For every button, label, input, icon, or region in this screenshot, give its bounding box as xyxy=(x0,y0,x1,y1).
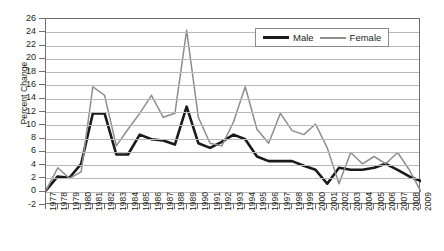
legend-label-male: Male xyxy=(293,33,314,43)
y-tick-mark xyxy=(39,84,45,85)
y-tick-label: 12 xyxy=(14,107,36,116)
y-tick-mark xyxy=(39,191,45,192)
x-tick-mark xyxy=(397,204,398,209)
y-tick-mark xyxy=(39,18,45,19)
y-tick-label: 6 xyxy=(14,146,36,155)
legend-swatch-female-icon xyxy=(320,37,346,39)
x-tick-label: 1988 xyxy=(177,192,186,211)
y-tick-mark xyxy=(39,164,45,165)
y-tick-label: 22 xyxy=(14,40,36,49)
y-tick-label: 8 xyxy=(14,133,36,142)
x-tick-label: 1993 xyxy=(236,192,245,211)
x-tick-label: 2009 xyxy=(424,192,433,211)
x-tick-mark xyxy=(256,204,257,209)
x-tick-label: 2006 xyxy=(388,192,397,211)
x-tick-mark xyxy=(291,204,292,209)
x-tick-label: 1978 xyxy=(60,192,69,211)
gridline xyxy=(46,72,419,73)
y-tick-mark xyxy=(39,138,45,139)
y-tick-label: 20 xyxy=(14,53,36,62)
y-tick-label: 14 xyxy=(14,93,36,102)
y-tick-mark xyxy=(39,177,45,178)
x-tick-label: 1985 xyxy=(142,192,151,211)
x-tick-mark xyxy=(80,204,81,209)
gridline xyxy=(46,85,419,86)
x-tick-mark xyxy=(326,204,327,209)
y-tick-label: 24 xyxy=(14,27,36,36)
x-tick-label: 2000 xyxy=(318,192,327,211)
legend-swatch-male-icon xyxy=(263,36,289,39)
y-tick-mark xyxy=(39,45,45,46)
x-tick-label: 1983 xyxy=(119,192,128,211)
legend-entry-female: Female xyxy=(320,33,382,43)
chart-legend: Male Female xyxy=(255,28,389,47)
gridline xyxy=(46,152,419,153)
y-tick-mark xyxy=(39,71,45,72)
x-tick-label: 2007 xyxy=(400,192,409,211)
legend-label-female: Female xyxy=(350,33,382,43)
x-tick-label: 1992 xyxy=(224,192,233,211)
gridline xyxy=(46,99,419,100)
x-tick-mark xyxy=(127,204,128,209)
series-line-female xyxy=(46,30,421,191)
y-tick-mark xyxy=(39,98,45,99)
x-tick-mark xyxy=(361,204,362,209)
x-tick-mark xyxy=(373,204,374,209)
x-tick-label: 1989 xyxy=(189,192,198,211)
x-tick-label: 1997 xyxy=(283,192,292,211)
x-tick-label: 1986 xyxy=(154,192,163,211)
x-tick-label: 1990 xyxy=(201,192,210,211)
y-tick-label: 18 xyxy=(14,67,36,76)
y-tick-label: -2 xyxy=(14,200,36,209)
x-tick-mark xyxy=(233,204,234,209)
x-tick-mark xyxy=(197,204,198,209)
x-tick-mark xyxy=(186,204,187,209)
y-tick-label: 10 xyxy=(14,120,36,129)
x-tick-mark xyxy=(57,204,58,209)
x-tick-label: 1987 xyxy=(166,192,175,211)
x-tick-label: 1995 xyxy=(259,192,268,211)
gridline xyxy=(46,165,419,166)
x-tick-mark xyxy=(104,204,105,209)
x-tick-label: 2005 xyxy=(377,192,386,211)
y-axis-tick-labels: 26242220181614121086420-2 xyxy=(14,0,36,251)
y-tick-mark xyxy=(39,58,45,59)
y-tick-label: 0 xyxy=(14,186,36,195)
percent-change-line-chart: Percent Change 26242220181614121086420-2… xyxy=(0,0,444,251)
x-tick-mark xyxy=(408,204,409,209)
x-tick-mark xyxy=(174,204,175,209)
y-tick-mark xyxy=(39,124,45,125)
x-tick-label: 1982 xyxy=(107,192,116,211)
x-tick-mark xyxy=(385,204,386,209)
gridline xyxy=(46,178,419,179)
x-tick-label: 1999 xyxy=(306,192,315,211)
x-tick-mark xyxy=(350,204,351,209)
legend-entry-male: Male xyxy=(263,33,314,43)
x-tick-label: 1996 xyxy=(271,192,280,211)
x-tick-mark xyxy=(221,204,222,209)
x-tick-label: 1984 xyxy=(131,192,140,211)
y-tick-label: 16 xyxy=(14,80,36,89)
x-tick-mark xyxy=(244,204,245,209)
y-tick-label: 4 xyxy=(14,160,36,169)
x-tick-mark xyxy=(279,204,280,209)
x-tick-mark xyxy=(92,204,93,209)
y-tick-label: 2 xyxy=(14,173,36,182)
x-tick-mark xyxy=(115,204,116,209)
y-tick-mark xyxy=(39,111,45,112)
x-tick-mark xyxy=(315,204,316,209)
x-tick-label: 1980 xyxy=(84,192,93,211)
x-tick-mark xyxy=(209,204,210,209)
gridline xyxy=(46,59,419,60)
x-tick-mark xyxy=(45,204,46,209)
x-tick-label: 2004 xyxy=(365,192,374,211)
x-tick-mark xyxy=(420,204,421,209)
x-tick-label: 2003 xyxy=(353,192,362,211)
x-tick-label: 2002 xyxy=(341,192,350,211)
y-tick-label: 26 xyxy=(14,14,36,23)
x-tick-label: 2001 xyxy=(330,192,339,211)
x-tick-label: 1981 xyxy=(95,192,104,211)
x-tick-label: 1979 xyxy=(72,192,81,211)
x-tick-label: 2008 xyxy=(412,192,421,211)
x-tick-mark xyxy=(150,204,151,209)
